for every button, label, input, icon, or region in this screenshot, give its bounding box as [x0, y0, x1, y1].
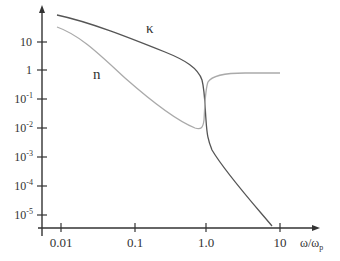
x-tick-label: 0.1: [127, 235, 143, 250]
y-tick-label: 10-2: [14, 120, 33, 135]
y-tick-label: 1: [26, 63, 32, 77]
n-curve: [57, 27, 280, 129]
y-tick-label: 10: [20, 35, 32, 49]
y-tick-label: 10-3: [14, 149, 33, 164]
chart-canvas: 10 1 10-1 10-2 10-3 10-4 10-5 0.01 0.1 1…: [0, 0, 340, 261]
n-label: n: [93, 66, 101, 82]
y-tick-label: 10-5: [14, 207, 33, 222]
x-axis-title: ω/ωp: [300, 236, 323, 252]
x-tick-labels: 0.01 0.1 1.0 10: [50, 235, 287, 250]
y-tick-label: 10-4: [14, 178, 33, 193]
x-tick-label: 0.01: [50, 235, 73, 250]
x-axis-arrow-icon: [312, 225, 320, 231]
x-tick-label: 1.0: [198, 235, 214, 250]
y-tick-labels: 10 1 10-1 10-2 10-3 10-4 10-5: [14, 35, 33, 222]
y-axis-arrow-icon: [39, 5, 45, 13]
y-tick-label: 10-1: [14, 91, 33, 106]
x-tick-label: 10: [274, 235, 287, 250]
kappa-label: κ: [146, 20, 154, 36]
